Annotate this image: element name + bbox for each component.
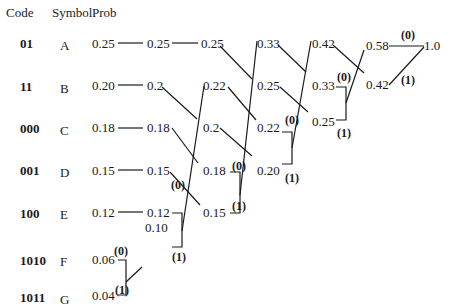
prob-d: 0.15 — [92, 164, 115, 178]
bit-zero-label: (0) — [114, 244, 128, 258]
prob-b: 0.20 — [92, 79, 115, 93]
header-symbol: Symbol — [52, 6, 92, 20]
code-f: 1010 — [20, 254, 46, 268]
bit-one-label: (1) — [115, 283, 129, 297]
stage1-value: 0.12 — [147, 206, 170, 220]
bit-zero-label: (0) — [285, 113, 299, 127]
stage4-value: 0.42 — [312, 37, 335, 51]
stage1-value: 0.18 — [147, 121, 170, 135]
stage1-value: 0.15 — [147, 164, 170, 178]
bit-one-label: (1) — [337, 126, 351, 140]
symbol-b: B — [60, 82, 69, 96]
stage2-value: 0.25 — [201, 37, 224, 51]
root-value: 1.0 — [424, 39, 440, 53]
stage3-value: 0.22 — [257, 121, 280, 135]
stage2-value: 0.22 — [203, 79, 226, 93]
stage1-value: 0.25 — [147, 37, 170, 51]
stage3-value: 0.20 — [257, 164, 280, 178]
symbol-f: F — [60, 255, 67, 269]
bit-one-label: (1) — [285, 171, 299, 185]
bit-one-label: (1) — [172, 250, 186, 264]
symbol-a: A — [60, 39, 69, 53]
bit-zero-label: (0) — [401, 28, 415, 42]
prob-a: 0.25 — [92, 37, 115, 51]
code-c: 000 — [20, 122, 40, 136]
header-prob: Prob — [92, 6, 117, 20]
bit-zero-label: (0) — [337, 70, 351, 84]
stage1-value-010: 0.10 — [145, 221, 168, 235]
header-code: Code — [6, 6, 33, 20]
symbol-d: D — [60, 166, 69, 180]
stage2-value: 0.2 — [203, 121, 219, 135]
bit-zero-label: (0) — [171, 178, 185, 192]
stage2-value: 0.15 — [203, 206, 226, 220]
stage3-value: 0.25 — [257, 79, 280, 93]
stage2-value: 0.18 — [203, 164, 226, 178]
code-e: 100 — [20, 207, 40, 221]
code-d: 001 — [20, 164, 40, 178]
prob-c: 0.18 — [92, 121, 115, 135]
prob-e: 0.12 — [92, 206, 115, 220]
stage4-value: 0.33 — [312, 79, 335, 93]
symbol-e: E — [60, 208, 68, 222]
bit-one-label: (1) — [401, 73, 415, 87]
code-a: 01 — [20, 37, 33, 51]
stage3-value: 0.33 — [257, 37, 280, 51]
stage1-value: 0.2 — [147, 79, 163, 93]
stage5-value: 0.42 — [366, 78, 389, 92]
bit-zero-label: (0) — [232, 159, 246, 173]
stage5-value: 0.58 — [366, 39, 389, 53]
symbol-g: G — [60, 293, 69, 307]
code-g: 1011 — [20, 291, 45, 305]
bit-one-label: (1) — [232, 199, 246, 213]
symbol-c: C — [60, 124, 69, 138]
stage4-value: 0.25 — [312, 115, 335, 129]
prob-f: 0.06 — [92, 253, 115, 267]
prob-g: 0.04 — [92, 289, 115, 303]
code-b: 11 — [20, 80, 32, 94]
